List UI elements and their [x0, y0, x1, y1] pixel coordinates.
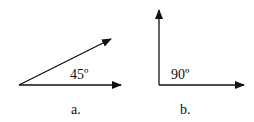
caption-b: b. — [180, 103, 191, 117]
angle-label-b: 90º — [171, 68, 189, 82]
caption-a: a. — [71, 103, 81, 117]
diagonal-arrow-a — [19, 39, 111, 85]
angle-diagrams — [0, 0, 254, 122]
angle-label-a: 45º — [70, 68, 88, 82]
